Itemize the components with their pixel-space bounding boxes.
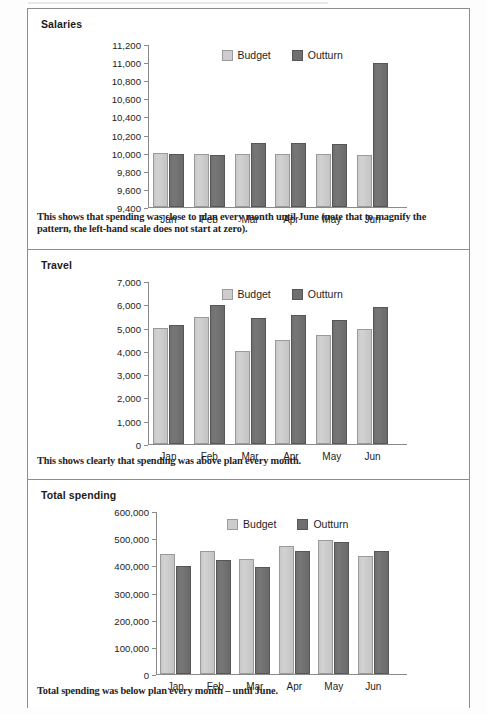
y-axis-tick xyxy=(152,621,156,622)
y-axis-tick xyxy=(144,172,148,173)
bar-outturn-mar xyxy=(255,567,270,674)
bar-budget-feb xyxy=(194,317,209,444)
bar-outturn-mar xyxy=(251,143,266,207)
y-axis-tick xyxy=(144,305,148,306)
chart-legend: BudgetOutturn xyxy=(222,288,343,300)
y-axis-tick xyxy=(144,375,148,376)
legend-swatch-outturn xyxy=(297,519,308,530)
scan-artifact xyxy=(28,2,328,4)
legend-label-budget: Budget xyxy=(238,288,271,300)
y-axis-tick-label: 5,000 xyxy=(117,323,141,334)
y-axis-tick-label: 10,600 xyxy=(112,94,141,105)
x-axis-line xyxy=(156,674,407,675)
bar-budget-may xyxy=(318,540,333,674)
bar-outturn-may xyxy=(334,542,349,674)
y-axis-tick-label: 0 xyxy=(136,440,141,451)
bar-budget-jun xyxy=(357,155,372,207)
y-axis-tick-label: 600,000 xyxy=(114,507,149,518)
plot-area: 01,0002,0003,0004,0005,0006,0007,000JanF… xyxy=(148,282,393,445)
panel-title: Total spending xyxy=(41,489,116,501)
y-axis-tick-label: 9,800 xyxy=(117,166,141,177)
plot-area: 9,4009,6009,80010,00010,20010,40010,6001… xyxy=(148,45,393,208)
legend-swatch-budget xyxy=(222,289,233,300)
y-axis-tick-label: 10,200 xyxy=(112,130,141,141)
y-axis-tick-label: 400,000 xyxy=(114,561,149,572)
bar-outturn-feb xyxy=(210,155,225,207)
y-axis-tick-label: 6,000 xyxy=(117,300,141,311)
legend-entry-outturn: Outturn xyxy=(292,49,343,61)
bar-outturn-jan xyxy=(176,566,191,674)
y-axis-tick xyxy=(144,63,148,64)
y-axis-tick xyxy=(144,422,148,423)
y-axis-tick xyxy=(144,81,148,82)
panel-caption: This shows clearly that spending was abo… xyxy=(37,455,461,467)
y-axis-tick-label: 1,000 xyxy=(117,416,141,427)
y-axis-tick xyxy=(152,594,156,595)
y-axis-tick xyxy=(144,282,148,283)
x-axis-line xyxy=(148,444,407,445)
figure-frame: Salaries 9,4009,6009,80010,00010,20010,4… xyxy=(27,8,470,708)
y-axis-tick xyxy=(144,329,148,330)
panel-salaries: Salaries 9,4009,6009,80010,00010,20010,4… xyxy=(28,9,469,249)
legend-swatch-outturn xyxy=(292,50,303,61)
bar-budget-jan xyxy=(160,554,175,674)
y-axis-line xyxy=(148,282,149,445)
bar-outturn-apr xyxy=(295,551,310,674)
y-axis-tick xyxy=(152,512,156,513)
y-axis-tick xyxy=(144,136,148,137)
bar-budget-feb xyxy=(194,154,209,207)
bar-budget-mar xyxy=(235,154,250,207)
legend-entry-budget: Budget xyxy=(227,518,276,530)
bar-budget-apr xyxy=(275,154,290,207)
document-page: Salaries 9,4009,6009,80010,00010,20010,4… xyxy=(0,0,487,714)
legend-entry-budget: Budget xyxy=(222,49,271,61)
bar-budget-jun xyxy=(357,329,372,444)
panel-title: Salaries xyxy=(41,18,82,30)
y-axis-tick xyxy=(144,352,148,353)
legend-entry-budget: Budget xyxy=(222,288,271,300)
y-axis-tick xyxy=(152,648,156,649)
y-axis-tick-label: 500,000 xyxy=(114,534,149,545)
legend-entry-outturn: Outturn xyxy=(297,518,348,530)
legend-entry-outturn: Outturn xyxy=(292,288,343,300)
bar-outturn-may xyxy=(332,144,347,207)
y-axis-tick xyxy=(144,154,148,155)
bar-budget-jan xyxy=(153,153,168,207)
y-axis-tick-label: 9,600 xyxy=(117,184,141,195)
bar-budget-mar xyxy=(239,559,254,674)
y-axis-line xyxy=(156,512,157,675)
y-axis-tick-label: 2,000 xyxy=(117,393,141,404)
x-axis-line xyxy=(148,207,407,208)
bar-budget-may xyxy=(316,154,331,207)
y-axis-tick xyxy=(144,117,148,118)
bar-budget-jan xyxy=(153,328,168,444)
legend-label-budget: Budget xyxy=(238,49,271,61)
y-axis-tick-label: 100,000 xyxy=(114,642,149,653)
bar-outturn-feb xyxy=(216,560,231,674)
y-axis-tick xyxy=(144,445,148,446)
y-axis-tick-label: 10,400 xyxy=(112,112,141,123)
bar-outturn-mar xyxy=(251,318,266,444)
y-axis-tick-label: 300,000 xyxy=(114,588,149,599)
bar-outturn-apr xyxy=(291,143,306,207)
bar-outturn-apr xyxy=(291,315,306,444)
chart-legend: BudgetOutturn xyxy=(227,518,348,530)
panel-travel: Travel 01,0002,0003,0004,0005,0006,0007,… xyxy=(28,249,469,479)
y-axis-tick-label: 7,000 xyxy=(117,277,141,288)
bar-budget-apr xyxy=(275,340,290,444)
y-axis-tick-label: 10,000 xyxy=(112,148,141,159)
chart-travel: 01,0002,0003,0004,0005,0006,0007,000JanF… xyxy=(148,282,393,445)
y-axis-tick-label: 200,000 xyxy=(114,615,149,626)
legend-swatch-budget xyxy=(227,519,238,530)
y-axis-line xyxy=(148,45,149,208)
y-axis-tick-label: 11,200 xyxy=(112,40,141,51)
y-axis-tick xyxy=(144,190,148,191)
y-axis-tick-label: 3,000 xyxy=(117,370,141,381)
legend-swatch-outturn xyxy=(292,289,303,300)
y-axis-tick xyxy=(144,99,148,100)
y-axis-tick-label: 4,000 xyxy=(117,346,141,357)
chart-salaries: 9,4009,6009,80010,00010,20010,40010,6001… xyxy=(148,45,393,208)
legend-label-outturn: Outturn xyxy=(308,49,343,61)
legend-label-outturn: Outturn xyxy=(308,288,343,300)
y-axis-tick-label: 10,800 xyxy=(112,76,141,87)
